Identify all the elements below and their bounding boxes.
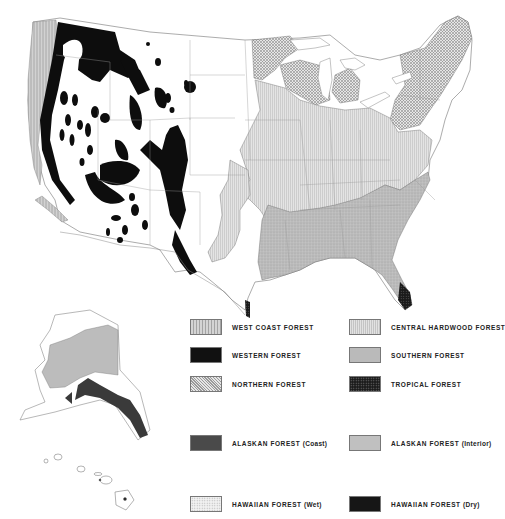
legend-item-alaskan-forest-coast: ALASKAN FOREST (Coast) (190, 435, 327, 451)
hawaii (44, 454, 134, 510)
hawaiian-dry-forest-swatch (349, 496, 381, 512)
alaskan-interior-forest-swatch (349, 435, 381, 451)
legend-item-tropical-forest: TROPICAL FOREST (349, 376, 461, 392)
legend-label: ALASKAN FOREST (Coast) (232, 440, 327, 447)
legend-label-main: HAWAIIAN FOREST (391, 501, 461, 508)
legend-label-main: ALASKAN FOREST (391, 440, 459, 447)
legend-item-central-hardwood-forest: CENTRAL HARDWOOD FOREST (349, 319, 505, 335)
legend-item-southern-forest: SOUTHERN FOREST (349, 347, 465, 363)
legend-item-northern-forest: NORTHERN FOREST (190, 376, 306, 392)
legend-item-west-coast-forest: WEST COAST FOREST (190, 319, 314, 335)
legend-label-main: HAWAIIAN FOREST (232, 501, 302, 508)
tropical-forest-swatch (349, 376, 381, 392)
legend-label: WESTERN FOREST (232, 352, 301, 359)
alaska (20, 310, 150, 440)
legend-label: CENTRAL HARDWOOD FOREST (391, 324, 505, 331)
central-hardwood-forest-swatch (349, 319, 381, 335)
legend-label: TROPICAL FOREST (391, 381, 461, 388)
southern-forest-swatch (349, 347, 381, 363)
legend-label: HAWAIIAN FOREST (Wet) (232, 501, 322, 508)
legend-label-sub: (Dry) (463, 501, 480, 508)
legend-label: SOUTHERN FOREST (391, 352, 465, 359)
legend-label: NORTHERN FOREST (232, 381, 306, 388)
legend-label-main: ALASKAN FOREST (232, 440, 300, 447)
legend-item-hawaiian-forest-wet: HAWAIIAN FOREST (Wet) (190, 496, 322, 512)
northern-forest-swatch (190, 376, 222, 392)
legend-label-sub: (Coast) (303, 440, 328, 447)
legend-label-sub: (Wet) (304, 501, 322, 508)
legend-label: WEST COAST FOREST (232, 324, 314, 331)
western-forest-swatch (190, 347, 222, 363)
legend-label: ALASKAN FOREST (Interior) (391, 440, 492, 447)
legend-label-sub: (Interior) (462, 440, 492, 447)
legend-item-western-forest: WESTERN FOREST (190, 347, 301, 363)
legend-label: HAWAIIAN FOREST (Dry) (391, 501, 480, 508)
legend-item-hawaiian-forest-dry: HAWAIIAN FOREST (Dry) (349, 496, 480, 512)
legend-item-alaskan-forest-interior: ALASKAN FOREST (Interior) (349, 435, 492, 451)
hawaiian-wet-forest-swatch (190, 496, 222, 512)
alaskan-coast-forest-swatch (190, 435, 222, 451)
west-coast-forest-swatch (190, 319, 222, 335)
